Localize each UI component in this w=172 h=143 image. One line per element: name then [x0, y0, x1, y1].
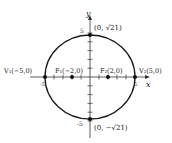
ellipse-diagram: y x 5 -5 -5 5 V₁(−5,0) F₁(−2,0) F₂(2,0) …: [0, 0, 172, 143]
vertex-v1-point: [43, 75, 47, 79]
label-f2: F₂(2,0): [100, 67, 123, 75]
label-top: (0, √21): [94, 24, 122, 32]
x-axis-label: x: [146, 80, 151, 89]
focus-f1-point: [70, 75, 74, 79]
tick-y-neg5: -5: [77, 120, 83, 127]
vertex-v2-point: [133, 75, 137, 79]
label-v1: V₁(−5,0): [3, 67, 33, 75]
label-f1: F₁(−2,0): [55, 67, 83, 75]
label-v2: V₂(5,0): [138, 67, 162, 75]
covertex-top-point: [88, 33, 92, 37]
covertex-bottom-point: [88, 117, 92, 121]
tick-y-5: 5: [80, 27, 84, 34]
x-axis-arrow-icon: [145, 75, 150, 79]
focus-f2-point: [106, 75, 110, 79]
tick-x-5: 5: [134, 81, 137, 87]
label-bottom: (0, −√21): [94, 124, 128, 132]
tick-x-neg5: -5: [40, 81, 45, 87]
y-axis-label: y: [85, 9, 91, 18]
